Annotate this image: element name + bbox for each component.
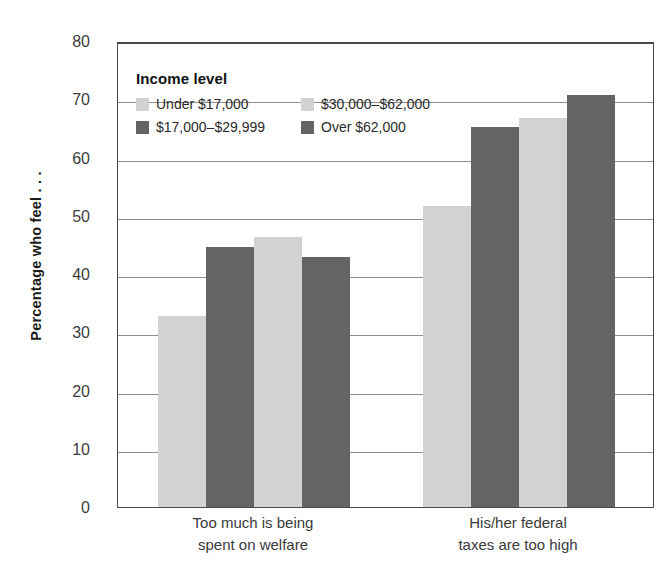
- category-label-0: Too much is being spent on welfare: [123, 512, 383, 556]
- category-label-1: His/her federal taxes are too high: [388, 512, 648, 556]
- y-tick-label: 40: [30, 266, 90, 284]
- y-tick-label: 80: [30, 33, 90, 51]
- bar-g1-s2: [519, 118, 567, 507]
- legend-item-label: Under $17,000: [156, 96, 249, 112]
- bar-g0-s1: [206, 247, 254, 507]
- legend-title: Income level: [136, 70, 466, 87]
- legend-item[interactable]: Over $62,000: [301, 119, 466, 135]
- y-tick-label: 30: [30, 324, 90, 342]
- legend-item-label: $17,000–$29,999: [156, 119, 265, 135]
- bar-g0-s2: [254, 237, 302, 507]
- bar-g1-s0: [423, 206, 471, 507]
- legend-item[interactable]: Under $17,000: [136, 96, 301, 112]
- y-tick-label: 70: [30, 91, 90, 109]
- bar-g0-s3: [302, 257, 350, 507]
- plot-area: Income level Under $17,000 $30,000–$62,0…: [117, 42, 654, 508]
- legend-swatch-icon: [301, 98, 314, 111]
- legend-row: Under $17,000 $30,000–$62,000: [136, 96, 466, 112]
- bar-g1-s3: [567, 95, 615, 507]
- y-tick-label: 60: [30, 150, 90, 168]
- legend-item[interactable]: $30,000–$62,000: [301, 96, 466, 112]
- y-tick-label: 10: [30, 441, 90, 459]
- bar-g0-s0: [158, 316, 206, 507]
- y-tick-label: 20: [30, 383, 90, 401]
- legend: Income level Under $17,000 $30,000–$62,0…: [136, 70, 466, 135]
- legend-swatch-icon: [301, 121, 314, 134]
- y-tick-label: 50: [30, 208, 90, 226]
- legend-item[interactable]: $17,000–$29,999: [136, 119, 301, 135]
- legend-swatch-icon: [136, 121, 149, 134]
- legend-row: $17,000–$29,999 Over $62,000: [136, 119, 466, 135]
- legend-item-label: $30,000–$62,000: [321, 96, 430, 112]
- bar-chart: Percentage who feel . . . 80 70 60 50 40…: [0, 0, 672, 584]
- y-tick-label: 0: [30, 499, 90, 517]
- legend-swatch-icon: [136, 98, 149, 111]
- legend-item-label: Over $62,000: [321, 119, 406, 135]
- x-axis-category-labels: Too much is being spent on welfare His/h…: [117, 512, 654, 576]
- bar-g1-s1: [471, 127, 519, 507]
